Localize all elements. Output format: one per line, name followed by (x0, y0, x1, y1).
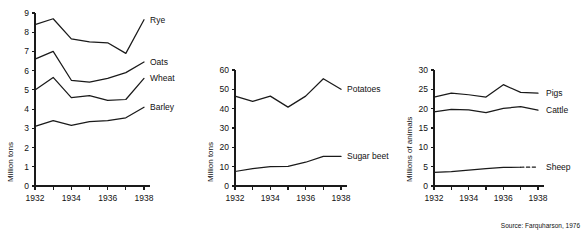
x-tick-label: 1934 (261, 193, 280, 203)
chart-panel-livestock: 0510152025301932193419361938Millions of … (392, 0, 586, 234)
y-tick-label: 30 (419, 65, 429, 75)
series-label-sheep: Sheep (546, 162, 571, 172)
y-tick-label: 25 (419, 84, 429, 94)
y-tick-label: 0 (224, 181, 229, 191)
source-note: Source: Farquharson, 1976 (501, 222, 580, 229)
x-tick-label: 1932 (425, 193, 444, 203)
series-label-pigs: Pigs (546, 88, 563, 98)
agriculture-production-figure: 01234567891932193419361938Million tonsRy… (0, 0, 586, 234)
y-tick-label: 10 (419, 142, 429, 152)
y-tick-label: 9 (24, 8, 29, 18)
y-tick-label: 15 (419, 123, 429, 133)
x-tick-label: 1938 (332, 193, 351, 203)
series-line-oats (35, 51, 144, 82)
series-label-sugar-beet: Sugar beet (347, 151, 389, 161)
series-line-sugar-beet (235, 156, 341, 171)
plot-area-crops: 01234567891932193419361938Million tonsRy… (6, 8, 175, 203)
y-tick-label: 0 (423, 181, 428, 191)
series-label-wheat: Wheat (150, 73, 175, 83)
x-tick-label: 1938 (529, 193, 548, 203)
series-line-cattle (434, 107, 538, 113)
x-tick-label: 1938 (135, 193, 154, 203)
series-label-barley: Barley (150, 102, 175, 112)
y-tick-label: 1 (24, 162, 29, 172)
series-line-pigs (434, 85, 538, 97)
y-tick-label: 30 (220, 123, 230, 133)
y-tick-label: 50 (220, 84, 230, 94)
x-tick-label: 1936 (296, 193, 315, 203)
chart-panel-crops: 01234567891932193419361938Million tonsRy… (0, 0, 196, 234)
series-line-wheat (35, 77, 144, 100)
crops-chart-svg: 01234567891932193419361938Million tonsRy… (0, 0, 196, 234)
y-axis-title: Millions of animals (405, 117, 414, 182)
y-tick-label: 0 (24, 181, 29, 191)
x-tick-label: 1934 (62, 193, 81, 203)
y-tick-label: 40 (220, 104, 230, 114)
x-tick-label: 1936 (494, 193, 513, 203)
y-tick-label: 20 (220, 142, 230, 152)
y-tick-label: 7 (24, 46, 29, 56)
series-line-barley (35, 107, 144, 126)
y-tick-label: 5 (423, 162, 428, 172)
y-axis-title: Million tons (206, 142, 215, 182)
y-tick-label: 60 (220, 65, 230, 75)
axis-lines (35, 13, 150, 186)
livestock-chart-svg: 0510152025301932193419361938Millions of … (392, 0, 586, 234)
y-tick-label: 4 (24, 104, 29, 114)
x-tick-label: 1934 (459, 193, 478, 203)
x-tick-label: 1936 (98, 193, 117, 203)
plot-area-livestock: 0510152025301932193419361938Millions of … (405, 65, 571, 203)
y-tick-label: 20 (419, 104, 429, 114)
series-line-rye (35, 19, 144, 54)
y-tick-label: 5 (24, 85, 29, 95)
chart-panel-roots: 01020304050601932193419361938Million ton… (196, 0, 392, 234)
plot-area-roots: 01020304050601932193419361938Million ton… (206, 65, 389, 203)
roots-chart-svg: 01020304050601932193419361938Million ton… (196, 0, 392, 234)
series-label-cattle: Cattle (546, 105, 568, 115)
x-tick-label: 1932 (26, 193, 45, 203)
series-line-sheep (434, 167, 521, 172)
y-tick-label: 3 (24, 123, 29, 133)
series-label-oats: Oats (150, 57, 168, 67)
x-tick-label: 1932 (226, 193, 245, 203)
series-label-rye: Rye (150, 15, 165, 25)
y-tick-label: 8 (24, 27, 29, 37)
y-tick-label: 2 (24, 143, 29, 153)
y-tick-label: 6 (24, 66, 29, 76)
y-axis-title: Million tons (6, 142, 15, 182)
y-tick-label: 10 (220, 162, 230, 172)
series-line-potatoes (235, 79, 341, 107)
series-label-potatoes: Potatoes (347, 84, 381, 94)
